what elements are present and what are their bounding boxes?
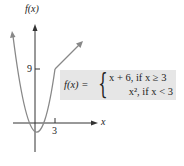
formula-case-1: x + 6, if x ≥ 3: [109, 72, 166, 83]
y-tick-label: 9: [27, 63, 32, 74]
parabola-curve: [13, 36, 55, 132]
curve-left-arrow-icon: [10, 31, 16, 38]
formula-lhs: f(x) =: [64, 79, 88, 90]
x-tick-label: 3: [52, 125, 57, 136]
line-segment: [55, 45, 79, 69]
y-axis-arrow-icon: [33, 24, 38, 31]
brace-icon: {: [98, 69, 108, 99]
y-axis-label: f(x): [25, 3, 39, 14]
x-axis-arrow-icon: [91, 121, 98, 126]
formula-case-2: x², if x < 3: [129, 86, 173, 97]
x-axis-label: x: [101, 116, 105, 127]
piecewise-formula-box: f(x) = { x + 6, if x ≥ 3 x², if x < 3: [60, 70, 176, 100]
